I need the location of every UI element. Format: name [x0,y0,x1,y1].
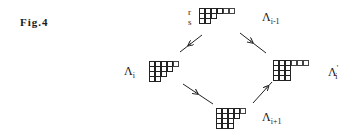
arrow-top-to-right [240,33,266,53]
arrow-left-to-bottom [183,84,213,104]
arrow-right-to-bottom [253,82,272,103]
arrows-layer [0,0,354,140]
